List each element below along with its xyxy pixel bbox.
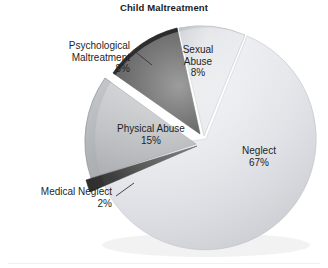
slice-label-neglect: Neglect 67% xyxy=(228,145,290,168)
slice-value-sexual-abuse: 8% xyxy=(168,67,228,79)
slice-label-physical-abuse-line1: Physical Abuse xyxy=(117,123,185,134)
chart-container: Child Maltreatment xyxy=(0,0,328,268)
slice-label-psychological-line2: Maltreatment xyxy=(72,52,130,63)
slice-label-medical-neglect: Medical Neglect 2% xyxy=(2,186,112,209)
slice-value-neglect: 67% xyxy=(228,157,290,169)
slice-label-sexual-abuse-line2: Abuse xyxy=(184,56,212,67)
slice-label-sexual-abuse: Sexual Abuse 8% xyxy=(168,44,228,79)
slice-label-psychological-maltreatment: Psychological Maltreatment 8% xyxy=(22,40,130,75)
slice-value-physical-abuse: 15% xyxy=(96,135,206,147)
slice-label-physical-abuse: Physical Abuse 15% xyxy=(96,123,206,146)
slice-label-neglect-line1: Neglect xyxy=(242,145,276,156)
slice-value-medical-neglect: 2% xyxy=(2,198,112,210)
bottom-rule xyxy=(8,263,320,264)
slice-value-psychological: 8% xyxy=(22,63,130,75)
slice-label-psychological-line1: Psychological xyxy=(69,40,130,51)
slice-label-medical-neglect-line1: Medical Neglect xyxy=(41,186,112,197)
slice-label-sexual-abuse-line1: Sexual xyxy=(183,44,214,55)
